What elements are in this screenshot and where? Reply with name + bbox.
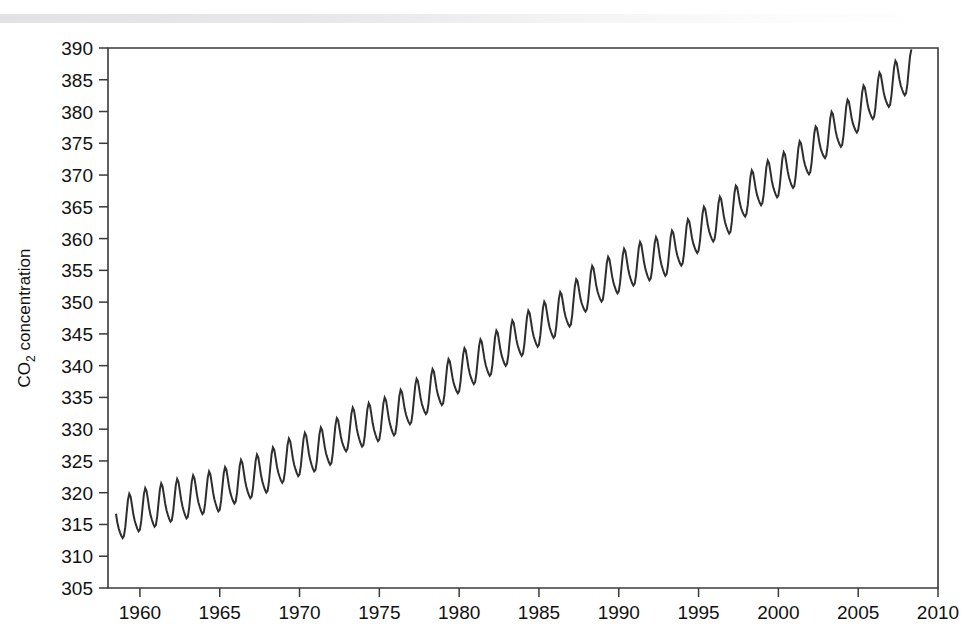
x-tick-label: 1995 [677, 602, 719, 623]
co2-concentration-figure: 3053103153203253303353403453503553603653… [0, 0, 970, 634]
x-tick-label: 1960 [119, 602, 161, 623]
x-tick-label: 2000 [757, 602, 799, 623]
y-tick-label: 360 [61, 229, 93, 250]
x-tick-label: 1990 [598, 602, 640, 623]
y-tick-label: 355 [61, 260, 93, 281]
x-tick-label: 1975 [358, 602, 400, 623]
y-tick-label: 330 [61, 419, 93, 440]
y-tick-label: 305 [61, 578, 93, 599]
y-tick-label: 385 [61, 70, 93, 91]
y-tick-label: 310 [61, 546, 93, 567]
x-tick-label: 2010 [917, 602, 959, 623]
x-tick-label: 1965 [199, 602, 241, 623]
x-tick-label: 1985 [518, 602, 560, 623]
co2-data-line [116, 49, 911, 538]
axis-tick-marks [99, 48, 938, 597]
y-axis-tick-labels: 3053103153203253303353403453503553603653… [61, 38, 93, 599]
y-axis-title: CO2 concentration [15, 249, 38, 388]
keeling-curve-chart: 3053103153203253303353403453503553603653… [0, 0, 970, 634]
y-tick-label: 345 [61, 324, 93, 345]
y-tick-label: 375 [61, 133, 93, 154]
y-tick-label: 350 [61, 292, 93, 313]
y-tick-label: 325 [61, 451, 93, 472]
y-tick-label: 365 [61, 197, 93, 218]
y-tick-label: 335 [61, 387, 93, 408]
x-tick-label: 1970 [278, 602, 320, 623]
y-tick-label: 320 [61, 483, 93, 504]
y-tick-label: 390 [61, 38, 93, 59]
x-axis-tick-labels: 1960196519701975198019851990199520002005… [119, 602, 959, 623]
x-tick-label: 1980 [438, 602, 480, 623]
y-tick-label: 315 [61, 514, 93, 535]
y-tick-label: 380 [61, 102, 93, 123]
plot-frame [108, 48, 938, 588]
y-tick-label: 370 [61, 165, 93, 186]
y-tick-label: 340 [61, 356, 93, 377]
x-tick-label: 2005 [837, 602, 879, 623]
